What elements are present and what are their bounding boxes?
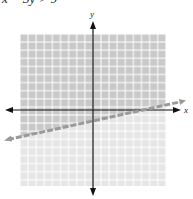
y-axis-label: y [89, 9, 94, 19]
x-axis-label: x [183, 105, 188, 115]
y-axis-down-arrow-icon [90, 188, 96, 196]
y-axis-up-arrow-icon [90, 21, 96, 29]
coordinate-graph: x y [0, 0, 193, 199]
x-axis-left-arrow-icon [5, 107, 13, 113]
boundary-left-arrow-icon [4, 136, 12, 142]
x-axis-right-arrow-icon [173, 107, 181, 113]
